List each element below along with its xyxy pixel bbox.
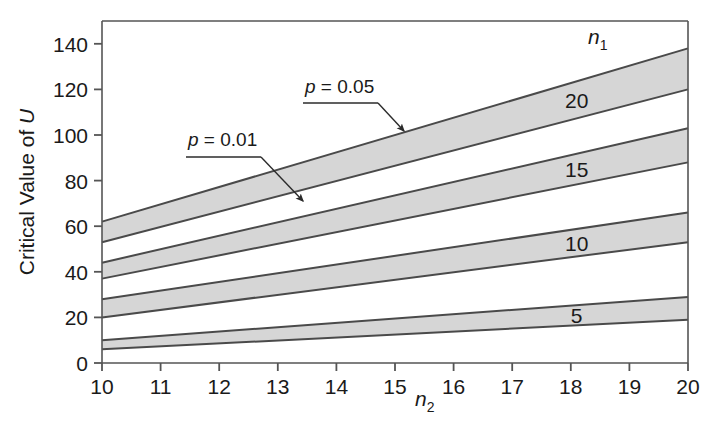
x-tick-label-10: 10 bbox=[90, 375, 113, 398]
y-tick-label-0: 0 bbox=[76, 352, 88, 375]
band-label-n1-15: 15 bbox=[565, 158, 588, 181]
x-tick-label-18: 18 bbox=[559, 375, 582, 398]
y-axis-title: Critical Value of U bbox=[15, 108, 38, 275]
annotation-value-p005: = 0.05 bbox=[316, 76, 375, 97]
x-tick-label-16: 16 bbox=[442, 375, 465, 398]
y-axis-title-text: Critical Value of bbox=[15, 124, 38, 275]
x-tick-label-13: 13 bbox=[266, 375, 289, 398]
band-label-n1-10: 10 bbox=[565, 232, 588, 255]
y-tick-label-40: 40 bbox=[65, 261, 88, 284]
y-tick-label-60: 60 bbox=[65, 215, 88, 238]
band-label-n1-20: 20 bbox=[565, 89, 588, 112]
x-tick-label-11: 11 bbox=[150, 375, 172, 398]
y-tick-label-20: 20 bbox=[65, 306, 88, 329]
y-tick-label-120: 120 bbox=[53, 78, 88, 101]
y-tick-label-80: 80 bbox=[65, 170, 88, 193]
annotation-variable-p001: p bbox=[187, 129, 199, 150]
annotation-variable-p005: p bbox=[304, 76, 316, 97]
y-tick-label-140: 140 bbox=[53, 33, 88, 56]
x-tick-label-14: 14 bbox=[325, 375, 349, 398]
x-tick-label-19: 19 bbox=[618, 375, 641, 398]
x-tick-label-15: 15 bbox=[383, 375, 406, 398]
chart-figure: 140120100806040200 101112131415161718192… bbox=[0, 0, 727, 425]
band-label-n1-5: 5 bbox=[571, 304, 583, 327]
x-axis-title-base: n bbox=[415, 387, 427, 410]
x-tick-label-12: 12 bbox=[208, 375, 231, 398]
y-tick-label-100: 100 bbox=[53, 124, 88, 147]
x-axis-title-subscript: 2 bbox=[427, 399, 435, 415]
annotation-label-p005: p = 0.05 bbox=[304, 76, 374, 97]
y-axis-title-variable: U bbox=[15, 108, 38, 124]
n1-group-label-subscript: 1 bbox=[600, 37, 608, 53]
x-tick-label-20: 20 bbox=[676, 375, 699, 398]
n1-group-label-base: n bbox=[588, 25, 600, 48]
annotation-label-p001: p = 0.01 bbox=[187, 129, 257, 150]
annotation-value-p001: = 0.01 bbox=[199, 129, 258, 150]
x-tick-label-17: 17 bbox=[501, 375, 524, 398]
